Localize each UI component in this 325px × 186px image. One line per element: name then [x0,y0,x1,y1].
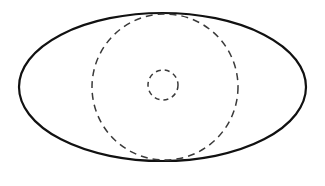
diagram-canvas [0,0,325,186]
canvas-background [0,0,325,186]
figure-root [0,0,325,186]
